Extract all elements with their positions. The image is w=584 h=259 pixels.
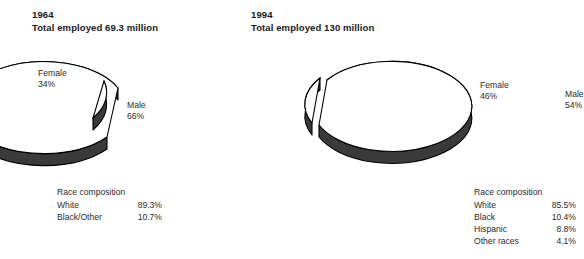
race-row: White 89.3%	[57, 199, 162, 211]
pie-label-female-name-1994: Female	[480, 80, 509, 91]
pie-label-male-percent-1994: 54%	[565, 100, 584, 111]
race-label: Black	[474, 211, 536, 223]
chart-year-1964: 1964	[32, 8, 158, 21]
race-composition-table-1994: Race composition White 85.5% Black 10.4%…	[474, 186, 576, 248]
pie-label-male-percent-1964: 66%	[127, 111, 146, 122]
race-value: 4.1%	[536, 235, 576, 247]
race-value: 10.4%	[536, 211, 576, 223]
race-value: 8.8%	[536, 223, 576, 235]
race-composition-table-1964: Race composition White 89.3% Black/Other…	[57, 186, 162, 223]
race-label: Hispanic	[474, 223, 536, 235]
race-row: Black 10.4%	[474, 211, 576, 223]
pie-label-female-1994: Female 46%	[480, 80, 509, 102]
race-row: Black/Other 10.7%	[57, 211, 162, 223]
race-row: Other races 4.1%	[474, 235, 576, 247]
race-label: White	[474, 199, 536, 211]
pie-label-female-1964: Female 34%	[38, 68, 67, 90]
race-label: White	[57, 199, 122, 211]
chart-title-1994: 1994 Total employed 130 million	[251, 8, 374, 34]
race-row: Hispanic 8.8%	[474, 223, 576, 235]
pie-label-male-1964: Male 66%	[127, 100, 146, 122]
pie-label-female-percent-1994: 46%	[480, 91, 509, 102]
pie-label-male-1994: Male 54%	[565, 89, 584, 111]
chart-total-1964: Total employed 69.3 million	[32, 21, 158, 34]
chart-title-1964: 1964 Total employed 69.3 million	[32, 8, 158, 34]
race-label: Black/Other	[57, 211, 122, 223]
pie-label-female-name-1964: Female	[38, 68, 67, 79]
race-row: White 85.5%	[474, 199, 576, 211]
chart-panel-1994: 1994 Total employed 130 million Female 4…	[217, 0, 434, 259]
pie-label-male-name-1994: Male	[565, 89, 584, 100]
race-value: 89.3%	[122, 199, 162, 211]
chart-year-1994: 1994	[251, 8, 374, 21]
chart-total-1994: Total employed 130 million	[251, 21, 374, 34]
pie-chart-1964	[0, 38, 217, 178]
pie-label-male-name-1964: Male	[127, 100, 146, 111]
race-label: Other races	[474, 235, 536, 247]
pie-slice-male-1994	[319, 61, 472, 163]
pie-label-female-percent-1964: 34%	[38, 79, 67, 90]
race-composition-heading-1964: Race composition	[57, 186, 162, 198]
pie-chart-1994	[217, 38, 434, 178]
pie-slice-female-1994	[305, 78, 320, 135]
chart-panel-1964: 1964 Total employed 69.3 million Female …	[0, 0, 217, 259]
race-value: 85.5%	[536, 199, 576, 211]
race-composition-heading-1994: Race composition	[474, 186, 576, 198]
race-value: 10.7%	[122, 211, 162, 223]
